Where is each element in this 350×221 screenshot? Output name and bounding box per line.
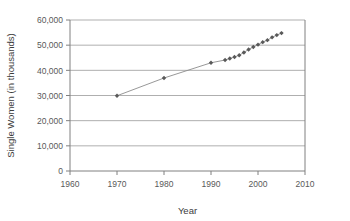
x-axis-tick-label: 1970 <box>108 179 127 189</box>
y-axis-tick-label: 50,000 <box>37 40 63 50</box>
x-axis-tick-label: 1980 <box>155 179 174 189</box>
data-point-marker <box>246 47 250 51</box>
data-point-marker <box>209 61 213 65</box>
series-line <box>117 33 282 96</box>
data-point-marker <box>232 55 236 59</box>
x-axis-tick-label: 1990 <box>202 179 221 189</box>
data-point-marker <box>242 50 246 54</box>
y-axis-tick-label: 60,000 <box>37 15 63 25</box>
line-chart: 010,00020,00030,00040,00050,00060,000196… <box>0 0 350 221</box>
x-axis-tick-label: 2000 <box>249 179 268 189</box>
data-point-marker <box>261 40 265 44</box>
y-axis-tick-label: 30,000 <box>37 91 63 101</box>
x-axis-title: Year <box>178 205 197 216</box>
data-point-marker <box>265 38 269 42</box>
x-axis-tick-label: 1960 <box>61 179 80 189</box>
y-axis-tick-label: 20,000 <box>37 116 63 126</box>
data-point-marker <box>275 33 279 37</box>
data-point-marker <box>228 56 232 60</box>
data-point-marker <box>237 53 241 57</box>
data-point-marker <box>223 58 227 62</box>
y-axis-title: Single Women (in thousands) <box>5 33 16 157</box>
y-axis-tick-label: 10,000 <box>37 141 63 151</box>
data-point-marker <box>270 35 274 39</box>
data-point-marker <box>256 42 260 46</box>
data-point-marker <box>279 31 283 35</box>
data-point-marker <box>115 94 119 98</box>
data-point-marker <box>162 76 166 80</box>
chart-container: 010,00020,00030,00040,00050,00060,000196… <box>0 0 350 221</box>
y-axis-tick-label: 40,000 <box>37 66 63 76</box>
y-axis-tick-label: 0 <box>58 166 63 176</box>
x-axis-tick-label: 2010 <box>296 179 315 189</box>
